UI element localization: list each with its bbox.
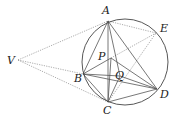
segment-CD (108, 89, 157, 102)
geometry-diagram: AEVPBQCD (0, 0, 176, 124)
label-point-q: Q (115, 69, 124, 82)
segment-PE (111, 33, 156, 58)
segment-VC (18, 60, 108, 102)
segment-PC (108, 58, 111, 102)
segment-AB (83, 21, 108, 74)
label-point-b: B (73, 72, 82, 85)
label-point-v: V (7, 54, 16, 67)
segment-VA (18, 21, 108, 60)
label-point-e: E (159, 22, 168, 35)
label-point-d: D (159, 88, 169, 101)
label-point-a: A (101, 4, 110, 17)
circumcircle (82, 19, 168, 105)
label-point-c: C (103, 104, 112, 117)
dotted-lines (18, 21, 156, 102)
label-point-p: P (97, 50, 106, 63)
solid-lines (83, 21, 157, 102)
segment-CE (108, 33, 156, 102)
